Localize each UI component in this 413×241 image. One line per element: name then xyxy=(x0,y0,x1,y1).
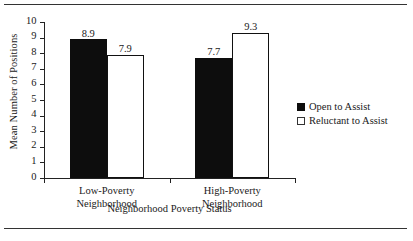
y-axis-tick: 9 xyxy=(40,38,45,39)
plot-area: 0123456789108.97.9Low-PovertyNeighborhoo… xyxy=(44,22,295,178)
y-axis-tick-label: 8 xyxy=(21,47,37,58)
y-axis-tick-label: 1 xyxy=(21,156,37,167)
y-axis-title: Mean Number of Positions xyxy=(8,17,19,167)
y-axis-tick: 3 xyxy=(40,131,45,132)
bar-value-label: 8.9 xyxy=(71,28,106,40)
x-axis-tick xyxy=(295,178,296,183)
y-axis-tick: 1 xyxy=(40,162,45,163)
bar-reluctant-to-assist-0: 7.9 xyxy=(107,55,144,178)
legend-entry-label: Reluctant to Assist xyxy=(309,114,388,128)
filled-square-icon xyxy=(297,103,305,111)
x-axis-tick xyxy=(44,178,45,183)
y-axis-tick: 2 xyxy=(40,147,45,148)
figure-top-rule xyxy=(4,4,407,5)
y-axis-tick-label: 2 xyxy=(21,140,37,151)
bar-value-label: 7.9 xyxy=(108,43,143,55)
y-axis-tick-label: 4 xyxy=(21,109,37,120)
category-label-line: High-Poverty xyxy=(170,185,296,198)
y-axis-tick: 7 xyxy=(40,69,45,70)
legend-entry-1: Reluctant to Assist xyxy=(297,114,388,128)
y-axis-tick: 5 xyxy=(40,100,45,101)
chart-legend: Open to AssistReluctant to Assist xyxy=(297,100,388,128)
y-axis-tick-label: 9 xyxy=(21,31,37,42)
y-axis-tick: 10 xyxy=(40,22,45,23)
bar-value-label: 9.3 xyxy=(233,21,268,33)
y-axis-tick: 8 xyxy=(40,53,45,54)
y-axis-tick-label: 6 xyxy=(21,78,37,89)
bar-open-to-assist-0: 8.9 xyxy=(70,39,107,178)
y-axis-tick-label: 0 xyxy=(21,172,37,183)
hollow-square-icon xyxy=(297,117,305,125)
x-axis-title: Neighborhood Poverty Status xyxy=(44,203,295,214)
figure-bottom-rule xyxy=(4,228,407,229)
y-axis-tick-label: 5 xyxy=(21,94,37,105)
legend-entry-label: Open to Assist xyxy=(309,100,370,114)
legend-entry-0: Open to Assist xyxy=(297,100,388,114)
y-axis-tick-label: 10 xyxy=(21,16,37,27)
bar-open-to-assist-1: 7.7 xyxy=(195,58,232,178)
category-label-line: Low-Poverty xyxy=(44,185,170,198)
x-axis-tick xyxy=(170,178,171,183)
bar-reluctant-to-assist-1: 9.3 xyxy=(232,33,269,178)
bar-value-label: 7.7 xyxy=(196,46,231,58)
y-axis-tick-label: 7 xyxy=(21,62,37,73)
bar-chart-figure: Mean Number of Positions 0123456789108.9… xyxy=(0,8,413,226)
y-axis-tick: 6 xyxy=(40,84,45,85)
y-axis-tick: 4 xyxy=(40,116,45,117)
y-axis-tick-label: 3 xyxy=(21,125,37,136)
